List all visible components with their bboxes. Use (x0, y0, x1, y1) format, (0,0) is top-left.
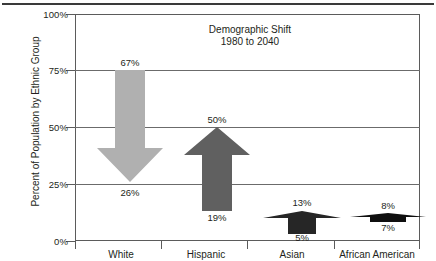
asian-up-arrow (262, 211, 342, 234)
y-label-25: 25% (24, 179, 68, 190)
chart-figure: Percent of Population by Ethnic Group 10… (0, 0, 436, 261)
x-category-white: White (78, 249, 164, 260)
chart-title-block: Demographic Shift 1980 to 2040 (150, 24, 350, 48)
x-tick-sep-1 (161, 241, 162, 249)
asian-start-value: 5% (262, 232, 342, 243)
x-category-asian: Asian (249, 249, 335, 260)
chart-title-line1: Demographic Shift (150, 24, 350, 36)
x-category-hispanic: Hispanic (163, 249, 249, 260)
x-category-african-american: African American (333, 249, 421, 260)
asian-end-value: 13% (262, 197, 342, 208)
page-top-rule (2, 3, 434, 5)
y-label-100: 100% (24, 9, 68, 20)
white-down-arrow (95, 70, 165, 185)
x-tick-right-edge (419, 241, 420, 249)
hispanic-end-value: 50% (182, 114, 252, 125)
y-label-50: 50% (24, 122, 68, 133)
white-start-value: 67% (95, 57, 165, 68)
chart-title-subtitle: 1980 to 2040 (150, 36, 350, 48)
african-american-start-value: 7% (348, 222, 428, 233)
x-tick-left-edge (75, 241, 76, 249)
y-label-75: 75% (24, 65, 68, 76)
white-end-value: 26% (95, 187, 165, 198)
y-label-0: 0% (24, 236, 68, 247)
hispanic-start-value: 19% (182, 212, 252, 223)
x-tick-sep-2 (247, 241, 248, 249)
hispanic-up-arrow (182, 127, 252, 211)
african-american-end-value: 8% (348, 200, 428, 211)
